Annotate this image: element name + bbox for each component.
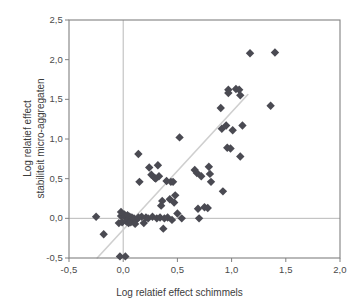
data-point — [236, 91, 244, 99]
data-point — [134, 150, 142, 158]
x-tick-label-0: -0,5 — [55, 264, 83, 275]
data-point — [195, 214, 203, 222]
scatter-plot-figure: -0,50,00,51,01,52,02,5 -0,50,00,51,01,52… — [0, 0, 359, 308]
data-point — [238, 121, 246, 129]
data-point — [135, 178, 143, 186]
y-axis-title: Log relatief effect stabiliteit micro-ag… — [22, 19, 47, 259]
data-point — [217, 104, 225, 112]
plot-frame — [65, 20, 340, 262]
data-point — [236, 152, 244, 160]
data-point — [206, 170, 214, 178]
trend-line — [97, 95, 248, 258]
data-point — [121, 252, 129, 260]
data-point — [159, 224, 167, 232]
data-point — [271, 48, 279, 56]
data-point — [246, 49, 254, 57]
x-tick-label-1: 0,0 — [109, 264, 137, 275]
data-point — [145, 163, 153, 171]
reference-lines — [69, 20, 340, 258]
data-point — [205, 163, 213, 171]
x-axis-title: Log relatief effect schimmels — [0, 287, 359, 298]
data-point — [175, 133, 183, 141]
x-tick-label-3: 1,0 — [218, 264, 246, 275]
y-axis-title-line1: Log relatief effect — [22, 19, 35, 259]
data-point — [228, 126, 236, 134]
y-axis-title-line2: stabiliteit micro-aggregaten — [34, 19, 47, 259]
data-point — [154, 161, 162, 169]
data-point — [207, 178, 215, 186]
data-point — [92, 213, 100, 221]
data-point — [266, 101, 274, 109]
x-tick-label-2: 0,5 — [163, 264, 191, 275]
data-point — [219, 187, 227, 195]
x-tick-label-5: 2,0 — [326, 264, 354, 275]
data-point — [194, 205, 202, 213]
axis-frame — [69, 20, 340, 258]
data-point — [99, 230, 107, 238]
x-tick-label-4: 1,5 — [272, 264, 300, 275]
data-points — [92, 48, 279, 260]
trend-line-group — [97, 95, 248, 258]
